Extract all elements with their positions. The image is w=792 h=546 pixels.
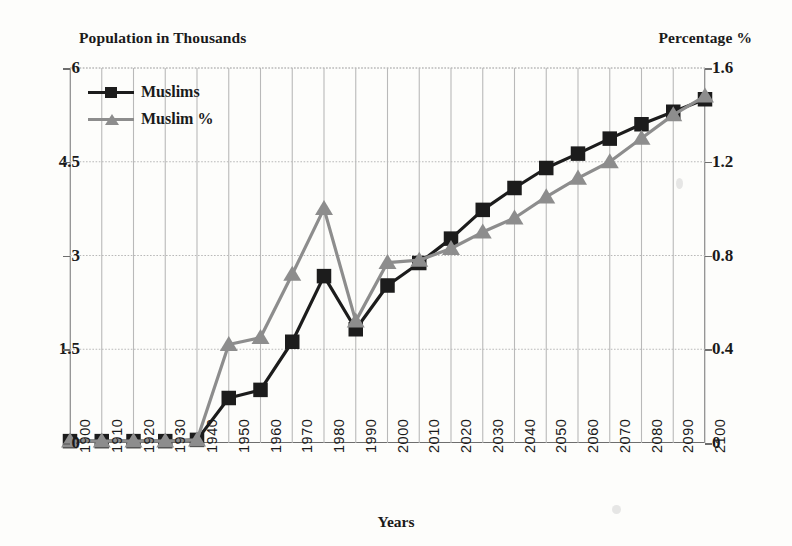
scan-artifact-1 [676,178,683,189]
right-axis-tick-label: 0.8 [712,247,733,264]
scan-artifact-2 [612,505,621,514]
x-axis-tick-label: 2030 [490,419,506,453]
x-axis-tick-label: 1970 [299,419,315,453]
left-axis-tick-mark [63,443,70,445]
x-axis-tick-label: 1910 [109,419,125,453]
x-axis-tick-label: 2000 [395,419,411,453]
right-axis-tick-label: 1.6 [712,59,733,76]
x-axis-tick-label: 2090 [680,419,696,453]
left-axis-tick-label: 3 [72,247,81,264]
x-axis-tick-label: 1960 [268,419,284,453]
x-axis-tick-label: 1990 [363,419,379,453]
x-axis-tick-label: 1940 [204,419,220,453]
left-axis-tick-label: 6 [72,59,81,76]
right-axis-tick-label: 1.2 [712,153,733,170]
left-axis-tick-mark [63,68,70,70]
x-axis-tick-label: 2040 [522,419,538,453]
right-axis-tick-mark [705,349,712,351]
x-axis-tick-label: 2010 [426,419,442,453]
legend-label-muslims: Muslims [141,83,200,101]
x-axis-tick-label: 1900 [77,419,93,453]
right-axis-tick-mark [705,68,712,70]
x-axis-tick-label: 1980 [331,419,347,453]
x-axis-tick-label: 2080 [649,419,665,453]
right-axis-tick-mark [705,256,712,258]
legend-item-muslim-percent: Muslim % [88,105,228,132]
x-axis-tick-label: 1930 [172,419,188,453]
x-axis-tick-label: 2060 [585,419,601,453]
x-axis-label: Years [0,513,792,531]
x-axis-tick-label: 2070 [617,419,633,453]
right-axis-tick-mark [705,443,712,445]
left-axis-tick-mark [63,162,70,164]
x-axis-tick-label: 1920 [141,419,157,453]
x-axis-tick-label: 2100 [712,419,728,453]
x-axis-tick-label: 2050 [553,419,569,453]
left-axis-title: Population in Thousands [79,29,246,47]
right-axis-title: Percentage % [659,29,752,47]
legend-item-muslims: Muslims [88,78,228,105]
left-axis-tick-mark [63,256,70,258]
chart-container: Population in Thousands Percentage % 01.… [0,0,792,546]
x-axis-tick-label: 1950 [236,419,252,453]
legend-marker-square [88,85,134,99]
left-axis-tick-mark [63,349,70,351]
right-axis-tick-mark [705,162,712,164]
legend-label-muslim-percent: Muslim % [141,110,213,128]
chart-legend: Muslims Muslim % [88,78,228,132]
legend-marker-triangle [88,112,134,126]
right-axis-tick-label: 0.4 [712,340,733,357]
x-axis-tick-label: 2020 [458,419,474,453]
